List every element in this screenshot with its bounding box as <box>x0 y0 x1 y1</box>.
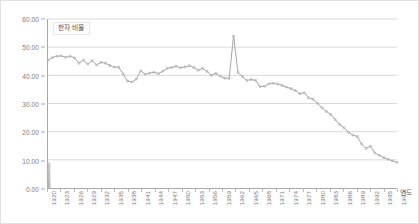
y-axis-tick <box>41 160 45 161</box>
series-label: 한자 비율 <box>53 22 90 35</box>
x-axis-tick-label: 1929 <box>90 191 97 205</box>
x-axis-tick-label: 1944 <box>157 191 164 205</box>
x-axis-tick <box>128 189 129 192</box>
x-axis-tick <box>141 189 142 192</box>
x-axis-tick-label: 1977 <box>305 191 312 205</box>
x-axis-tick-label: 1941 <box>144 191 151 205</box>
x-axis-tick <box>101 189 102 192</box>
x-axis-tick-label: 1920 <box>50 191 57 205</box>
x-axis-tick <box>370 189 371 192</box>
x-axis-tick <box>384 189 385 192</box>
x-axis-tick-label: 1950 <box>184 191 191 205</box>
x-axis-tick-label: 1962 <box>238 191 245 205</box>
x-axis-tick-label: 1932 <box>103 191 110 205</box>
y-axis: 0.0010.0020.0030.0040.0050.0060.00 <box>1 19 45 189</box>
y-axis-tick-label: 50.00 <box>22 44 39 51</box>
x-axis-tick-label: 1968 <box>265 191 272 205</box>
x-axis-tick <box>235 189 236 192</box>
x-axis-tick <box>47 189 48 192</box>
x-axis-tick-label: 1953 <box>198 191 205 205</box>
x-axis-title: 연도 <box>400 187 412 197</box>
x-axis-tick <box>262 189 263 192</box>
x-axis-tick <box>182 189 183 192</box>
y-axis-tick <box>41 47 45 48</box>
x-axis-tick <box>397 189 398 192</box>
x-axis-tick <box>74 189 75 192</box>
x-axis-tick-label: 1926 <box>77 191 84 205</box>
x-axis-tick <box>222 189 223 192</box>
x-axis-tick <box>60 189 61 192</box>
x-axis-tick <box>87 189 88 192</box>
x-axis-tick-label: 1989 <box>359 191 366 205</box>
x-axis-tick-label: 1983 <box>332 191 339 205</box>
x-axis-tick-label: 1980 <box>319 191 326 205</box>
x-axis-tick-label: 1956 <box>211 191 218 205</box>
y-axis-tick <box>41 75 45 76</box>
x-axis-tick-label: 1986 <box>346 191 353 205</box>
x-axis-tick-label: 1992 <box>373 191 380 205</box>
x-axis-tick-label: 1938 <box>130 191 137 205</box>
x-axis-tick <box>289 189 290 192</box>
y-axis-tick <box>41 104 45 105</box>
x-axis-tick <box>330 189 331 192</box>
x-axis-tick <box>155 189 156 192</box>
x-axis-tick <box>195 189 196 192</box>
x-axis-tick <box>316 189 317 192</box>
plot-area <box>47 19 397 189</box>
x-axis-tick <box>303 189 304 192</box>
y-axis-tick-label: 40.00 <box>22 72 39 79</box>
x-axis: 1920192319261929193219351938194119441947… <box>47 191 397 221</box>
x-axis-tick-label: 1947 <box>171 191 178 205</box>
y-axis-tick-label: 10.00 <box>22 157 39 164</box>
y-axis-tick-label: 60.00 <box>22 16 39 23</box>
x-axis-tick-label: 1971 <box>278 191 285 205</box>
x-axis-tick <box>276 189 277 192</box>
y-axis-tick-label: 0.00 <box>26 186 39 193</box>
x-axis-tick <box>209 189 210 192</box>
x-axis-tick <box>343 189 344 192</box>
data-series-line <box>48 19 397 188</box>
x-axis-tick <box>249 189 250 192</box>
y-axis-tick-label: 30.00 <box>22 101 39 108</box>
x-axis-tick-label: 1959 <box>225 191 232 205</box>
x-axis-tick <box>114 189 115 192</box>
x-axis-tick <box>168 189 169 192</box>
x-axis-tick-label: 1935 <box>117 191 124 205</box>
x-axis-tick-label: 1923 <box>63 191 70 205</box>
chart-container: 0.0010.0020.0030.0040.0050.0060.00 19201… <box>0 0 419 224</box>
y-axis-tick <box>41 132 45 133</box>
x-axis-tick-label: 1995 <box>386 191 393 205</box>
y-axis-tick-label: 20.00 <box>22 129 39 136</box>
x-axis-tick <box>357 189 358 192</box>
x-axis-tick-label: 1965 <box>252 191 259 205</box>
y-axis-tick <box>41 19 45 20</box>
y-axis-tick <box>41 189 45 190</box>
x-axis-tick-label: 1974 <box>292 191 299 205</box>
